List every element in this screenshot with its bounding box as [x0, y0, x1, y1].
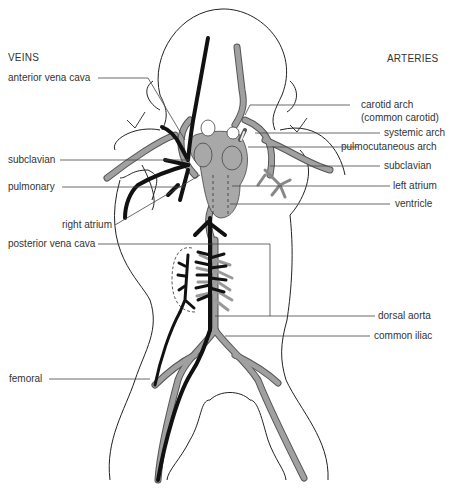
label-dorsal-aorta: dorsal aorta [378, 310, 431, 322]
label-subclavian-artery: subclavian [384, 160, 431, 172]
body-outline [109, 9, 345, 480]
label-systemic-arch: systemic arch [384, 127, 445, 139]
label-ventricle: ventricle [395, 198, 432, 210]
arteries-header: ARTERIES [387, 53, 438, 64]
label-subclavian-vein: subclavian [8, 154, 55, 166]
heart [190, 120, 248, 218]
label-common-iliac: common iliac [374, 330, 432, 342]
label-carotid-arch: carotid arch [361, 99, 413, 111]
label-posterior-vena-cava: posterior vena cava [8, 238, 95, 250]
arteries [107, 47, 330, 480]
veins-header: VEINS [8, 52, 39, 63]
label-right-atrium: right atrium [62, 219, 112, 231]
label-femoral: femoral [9, 373, 42, 385]
label-anterior-vena-cava: anterior vena cava [8, 72, 90, 84]
label-left-atrium: left atrium [393, 180, 437, 192]
label-pulmocutaneous-arch: pulmocutaneous arch [341, 141, 437, 153]
label-common-carotid: (common carotid) [361, 112, 439, 124]
label-pulmonary: pulmonary [8, 181, 55, 193]
